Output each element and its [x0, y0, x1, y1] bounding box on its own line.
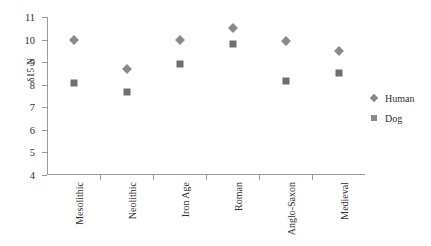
data-point-human-mesolithic	[69, 35, 79, 45]
y-tick-label: 7	[30, 102, 35, 113]
y-tick: 6	[42, 130, 47, 131]
data-point-dog-iron-age	[176, 61, 183, 68]
x-tick	[100, 175, 101, 180]
y-tick: 8	[42, 85, 47, 86]
x-category-label: Mesolithic	[74, 182, 85, 225]
x-category-label: Medieval	[339, 182, 350, 220]
x-tick	[153, 175, 154, 180]
plot-area: 4567891011	[47, 17, 365, 175]
x-category-mesolithic: Mesolithic	[67, 182, 81, 244]
data-point-dog-anglo-saxon	[282, 78, 289, 85]
x-category-label: Neolithic	[127, 182, 138, 219]
y-tick-label: 10	[25, 34, 36, 45]
data-point-dog-neolithic	[123, 88, 130, 95]
scatter-chart: δ15 N 4567891011 MesolithicNeolithicIron…	[0, 0, 431, 246]
x-category-label: Roman	[233, 182, 244, 211]
y-tick-label: 8	[30, 79, 35, 90]
diamond-marker-icon	[368, 95, 380, 101]
x-tick	[312, 175, 313, 180]
data-point-dog-mesolithic	[70, 79, 77, 86]
x-category-anglo-saxon: Anglo-Saxon	[279, 182, 293, 244]
data-point-dog-medieval	[335, 70, 342, 77]
data-point-human-medieval	[334, 46, 344, 56]
legend-label-human: Human	[385, 93, 414, 104]
x-category-medieval: Medieval	[332, 182, 346, 244]
y-tick: 5	[42, 152, 47, 153]
data-point-human-anglo-saxon	[281, 36, 291, 46]
x-category-iron-age: Iron Age	[173, 182, 187, 244]
y-tick-label: 4	[30, 170, 35, 181]
x-category-roman: Roman	[226, 182, 240, 244]
y-tick: 9	[42, 62, 47, 63]
legend-item-dog: Dog	[368, 108, 430, 128]
x-tick	[206, 175, 207, 180]
y-tick-label: 9	[30, 57, 35, 68]
data-point-human-roman	[228, 23, 238, 33]
x-category-neolithic: Neolithic	[120, 182, 134, 244]
legend-item-human: Human	[368, 88, 430, 108]
legend-label-dog: Dog	[385, 113, 402, 124]
data-point-human-iron-age	[175, 35, 185, 45]
y-tick: 4	[42, 175, 47, 176]
data-point-human-neolithic	[122, 64, 132, 74]
y-tick: 7	[42, 107, 47, 108]
y-tick: 10	[42, 40, 47, 41]
y-tick-label: 5	[30, 147, 35, 158]
y-tick: 11	[42, 17, 47, 18]
y-tick-label: 6	[30, 124, 35, 135]
x-tick	[259, 175, 260, 180]
square-marker-icon	[368, 115, 380, 121]
chart-legend: Human Dog	[368, 88, 430, 128]
y-axis-label: δ15 N	[26, 38, 42, 102]
x-category-label: Iron Age	[180, 182, 191, 217]
y-axis-line	[47, 17, 48, 175]
y-tick-label: 11	[25, 12, 35, 23]
data-point-dog-roman	[229, 41, 236, 48]
x-category-label: Anglo-Saxon	[286, 182, 297, 235]
